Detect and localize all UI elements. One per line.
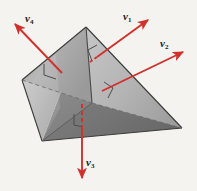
tetrahedron-normals-figure: v1 v2 v3 v4 <box>0 0 197 191</box>
vector-v1 <box>97 20 148 57</box>
tetrahedron-solid <box>22 27 182 141</box>
vector-label-v4: v4 <box>25 13 33 24</box>
vector-label-v1: v1 <box>123 11 131 22</box>
tetrahedron-diagram <box>0 0 197 191</box>
vector-label-v2: v2 <box>160 38 168 49</box>
vector-label-v3: v3 <box>86 157 94 168</box>
